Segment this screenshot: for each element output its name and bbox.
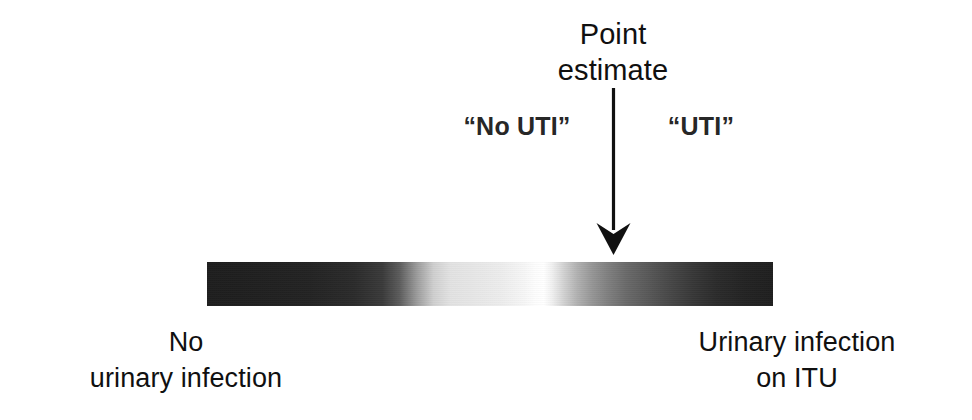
point-estimate-line-2: estimate: [493, 52, 733, 88]
anchor-caption-left: No urinary infection: [26, 324, 346, 396]
grayscale-spectrum-bar: [207, 262, 773, 306]
point-estimate-line-1: Point: [493, 16, 733, 52]
spectrum-diagram: Point estimate “No UTI” “UTI” No urinary…: [0, 0, 972, 420]
point-estimate-arrow: [590, 84, 638, 259]
region-label-no-uti: “No UTI”: [417, 112, 617, 141]
anchor-caption-right: Urinary infection on ITU: [637, 324, 957, 396]
point-estimate-label: Point estimate: [493, 16, 733, 88]
region-label-uti: “UTI”: [640, 112, 762, 141]
anchor-left-line-1: No: [26, 324, 346, 360]
anchor-left-line-2: urinary infection: [26, 360, 346, 396]
anchor-right-line-1: Urinary infection: [637, 324, 957, 360]
anchor-right-line-2: on ITU: [637, 360, 957, 396]
